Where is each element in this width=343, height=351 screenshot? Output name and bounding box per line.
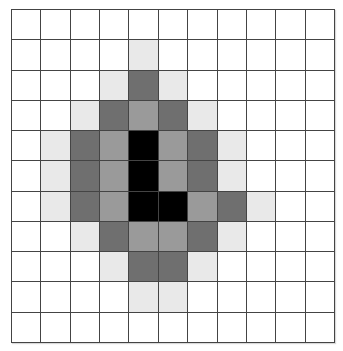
grid-cell-white — [188, 313, 217, 343]
grid-cell-light-gray — [71, 222, 100, 252]
grid-cell-white — [306, 192, 335, 222]
grid-cell-dark-gray — [218, 192, 247, 222]
grid-cell-black — [129, 161, 158, 191]
grid-cell-medium-gray — [159, 222, 188, 252]
grid-cell-white — [129, 10, 158, 40]
grid-cell-white — [12, 10, 41, 40]
grid-cell-light-gray — [41, 131, 70, 161]
grid-cell-light-gray — [218, 222, 247, 252]
grid-cell-white — [71, 282, 100, 312]
grid-cell-dark-gray — [71, 131, 100, 161]
grid-cell-white — [12, 131, 41, 161]
grid-cell-dark-gray — [188, 161, 217, 191]
grid-cell-white — [71, 40, 100, 70]
grid-cell-white — [188, 282, 217, 312]
grid-cell-white — [159, 10, 188, 40]
grid-cell-white — [41, 252, 70, 282]
grid-cell-white — [306, 71, 335, 101]
grid-cell-light-gray — [218, 161, 247, 191]
grid-cell-white — [188, 40, 217, 70]
grid-cell-medium-gray — [100, 192, 129, 222]
grid-cell-white — [247, 282, 276, 312]
grid-cell-dark-gray — [71, 161, 100, 191]
grid-cell-medium-gray — [100, 161, 129, 191]
grid-cell-white — [188, 10, 217, 40]
grid-cell-dark-gray — [71, 192, 100, 222]
grid-cell-white — [71, 252, 100, 282]
grid-cell-white — [276, 192, 305, 222]
grid-cell-white — [276, 131, 305, 161]
grid-cell-white — [159, 313, 188, 343]
grid-cell-medium-gray — [159, 131, 188, 161]
grid-cell-light-gray — [247, 192, 276, 222]
grid-cell-light-gray — [129, 282, 158, 312]
grid-cell-light-gray — [188, 101, 217, 131]
grid-cell-white — [306, 313, 335, 343]
grid-cell-white — [12, 71, 41, 101]
grid-cell-white — [218, 313, 247, 343]
grid-cell-medium-gray — [188, 192, 217, 222]
grid-cell-white — [276, 313, 305, 343]
grid-cell-white — [41, 222, 70, 252]
grid-cell-light-gray — [41, 161, 70, 191]
grid-cell-dark-gray — [188, 222, 217, 252]
grid-cell-white — [41, 40, 70, 70]
grid-cell-white — [306, 222, 335, 252]
grid-cell-dark-gray — [100, 101, 129, 131]
grid-cell-white — [218, 40, 247, 70]
grid-cell-white — [276, 222, 305, 252]
grid-cell-white — [71, 10, 100, 40]
grid-cell-white — [41, 10, 70, 40]
grid-cell-white — [12, 161, 41, 191]
grid-cell-white — [12, 101, 41, 131]
grid-cell-light-gray — [100, 252, 129, 282]
grid-cell-light-gray — [129, 40, 158, 70]
grid-cell-white — [276, 10, 305, 40]
grid-cell-light-gray — [159, 282, 188, 312]
pixel-grid — [11, 9, 335, 343]
grid-cell-white — [41, 101, 70, 131]
grid-cell-white — [41, 71, 70, 101]
grid-cell-white — [276, 101, 305, 131]
grid-cell-white — [100, 313, 129, 343]
grid-cell-white — [276, 252, 305, 282]
grid-cell-black — [129, 192, 158, 222]
grid-cell-white — [247, 252, 276, 282]
grid-cell-white — [100, 40, 129, 70]
grid-cell-white — [247, 161, 276, 191]
grid-cell-white — [306, 40, 335, 70]
grid-cell-white — [12, 252, 41, 282]
grid-cell-light-gray — [41, 192, 70, 222]
grid-cell-white — [276, 161, 305, 191]
grid-cell-medium-gray — [100, 131, 129, 161]
grid-cell-white — [306, 282, 335, 312]
grid-cell-dark-gray — [159, 101, 188, 131]
grid-cell-white — [12, 313, 41, 343]
grid-cell-white — [218, 252, 247, 282]
grid-cell-dark-gray — [129, 71, 158, 101]
grid-cell-black — [159, 192, 188, 222]
grid-cell-white — [71, 313, 100, 343]
grid-cell-white — [306, 131, 335, 161]
grid-cell-white — [306, 252, 335, 282]
grid-cell-light-gray — [188, 252, 217, 282]
grid-cell-white — [12, 192, 41, 222]
grid-cell-white — [159, 40, 188, 70]
grid-cell-dark-gray — [129, 252, 158, 282]
grid-cell-white — [100, 282, 129, 312]
grid-cell-white — [276, 71, 305, 101]
grid-cell-white — [247, 131, 276, 161]
grid-cell-white — [247, 313, 276, 343]
grid-cell-white — [276, 40, 305, 70]
grid-cell-medium-gray — [129, 101, 158, 131]
grid-cell-white — [247, 10, 276, 40]
grid-cell-white — [306, 161, 335, 191]
grid-cell-white — [247, 40, 276, 70]
grid-cell-medium-gray — [159, 161, 188, 191]
grid-cell-light-gray — [71, 101, 100, 131]
grid-cell-white — [100, 10, 129, 40]
grid-cell-white — [188, 71, 217, 101]
grid-cell-white — [12, 282, 41, 312]
grid-cell-white — [12, 40, 41, 70]
grid-cell-dark-gray — [188, 131, 217, 161]
